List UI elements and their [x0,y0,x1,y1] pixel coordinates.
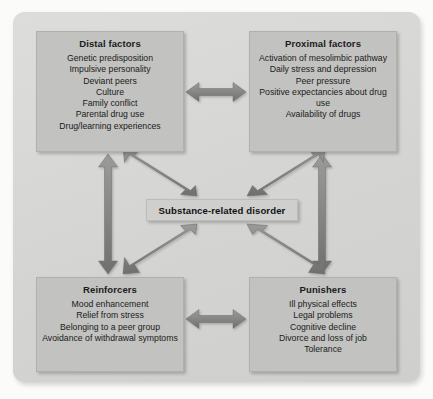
list-item: Tolerance [254,344,392,355]
list-item: Divorce and loss of job [254,333,392,344]
list-item: Genetic predisposition [41,53,179,64]
box-reinforcers-list: Mood enhancement Relief from stress Belo… [41,299,179,344]
list-item: Mood enhancement [41,299,179,310]
box-proximal-factors-list: Activation of mesolimbic pathway Daily s… [254,53,392,121]
list-item: Cognitive decline [254,322,392,333]
box-distal-factors: Distal factors Genetic predisposition Im… [36,31,184,152]
list-item: Belonging to a peer group [41,322,179,333]
box-punishers: Punishers Ill physical effects Legal pro… [249,277,397,372]
list-item: Relief from stress [41,310,179,321]
box-substance-related-disorder-title: Substance-related disorder [159,205,286,216]
list-item: Avoidance of withdrawal symptoms [41,333,179,344]
list-item: Culture [41,87,179,98]
box-punishers-list: Ill physical effects Legal problems Cogn… [254,299,392,355]
box-distal-factors-list: Genetic predisposition Impulsive persona… [41,53,179,132]
list-item: Impulsive personality [41,64,179,75]
list-item: Parental drug use [41,109,179,120]
list-item: Family conflict [41,98,179,109]
box-reinforcers: Reinforcers Mood enhancement Relief from… [36,277,184,372]
list-item: Positive expectancies about drug use [254,87,392,110]
box-substance-related-disorder: Substance-related disorder [146,199,298,221]
box-reinforcers-title: Reinforcers [41,283,179,296]
box-distal-factors-title: Distal factors [41,37,179,50]
list-item: Drug/learning experiences [41,121,179,132]
list-item: Deviant peers [41,76,179,87]
list-item: Activation of mesolimbic pathway [254,53,392,64]
list-item: Daily stress and depression [254,64,392,75]
list-item: Legal problems [254,310,392,321]
diagram-figure: Distal factors Genetic predisposition Im… [0,0,433,399]
box-proximal-factors: Proximal factors Activation of mesolimbi… [249,31,397,152]
list-item: Peer pressure [254,76,392,87]
box-proximal-factors-title: Proximal factors [254,37,392,50]
list-item: Ill physical effects [254,299,392,310]
list-item: Availability of drugs [254,109,392,120]
box-punishers-title: Punishers [254,283,392,296]
